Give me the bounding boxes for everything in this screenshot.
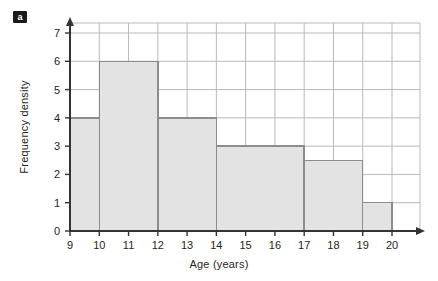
x-axis-tick-label: 10 [93,239,105,251]
histogram-bar [216,146,304,231]
x-axis-tick-label: 14 [210,239,222,251]
y-axis-title: Frequency density [18,62,30,192]
histogram-chart: 9101112131415161718192001234567 [0,0,438,281]
y-axis-tick-label: 6 [54,55,60,67]
x-axis-tick-label: 13 [181,239,193,251]
x-axis-tick-label: 11 [123,239,134,251]
histogram-bar [99,61,158,231]
y-axis-arrow-icon [66,17,74,26]
y-axis-tick-label: 0 [54,225,60,237]
histogram-bar [363,203,392,231]
histogram-figure: a 9101112131415161718192001234567 Age (y… [0,0,438,281]
y-axis-tick-label: 2 [54,168,60,180]
y-axis-tick-label: 4 [54,112,60,124]
y-axis-tick-label: 7 [54,27,60,39]
x-axis-tick-label: 12 [152,239,164,251]
histogram-bar [304,160,363,231]
x-axis-title: Age (years) [0,258,438,270]
y-axis-tick-label: 1 [54,197,60,209]
y-axis-tick-label: 3 [54,140,60,152]
x-axis-tick-label: 20 [386,239,398,251]
histogram-bar [70,118,99,231]
x-axis-tick-label: 19 [357,239,369,251]
y-axis-tick-label: 5 [54,84,60,96]
x-axis-tick-label: 17 [298,239,310,251]
x-axis-tick-label: 18 [327,239,339,251]
x-axis-tick-label: 16 [269,239,281,251]
x-axis-tick-label: 15 [240,239,252,251]
histogram-bar [158,118,217,231]
x-axis-tick-label: 9 [67,239,73,251]
